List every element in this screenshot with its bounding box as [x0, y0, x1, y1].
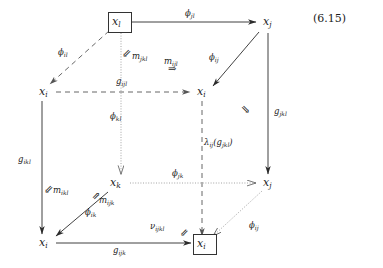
- edge-label-g-jkl: gjkl: [274, 107, 287, 117]
- node-x-i-front-top-right: xi: [197, 86, 206, 99]
- cell-label-m-ijk: mijk: [99, 196, 114, 206]
- edge-phi-ij-upper: [213, 32, 259, 86]
- node-x-k: xk: [110, 177, 121, 190]
- node-x-j-back-bot-right: xj: [263, 177, 272, 190]
- edge-label-g-ikl: gikl: [18, 155, 31, 165]
- cube-diagram-svg: [0, 0, 383, 268]
- edge-label-phi-jk: ϕjk: [172, 169, 183, 179]
- edge-label-phi-jl: ϕjl: [185, 9, 195, 19]
- double-arrow-m-jkl-icon: ⇙: [122, 48, 131, 59]
- edge-label-phi-il: ϕil: [58, 48, 68, 58]
- double-arrow-nu-ijkl-icon: ⇙: [180, 228, 188, 238]
- cell-label-m-jkl: mjkl: [132, 52, 147, 62]
- figure-canvas: (6.15) xl xj xi xi xk xj xi xi ϕjl ϕil ϕ…: [0, 0, 383, 268]
- node-x-i-front-top-left: xi: [39, 86, 48, 99]
- cell-label-nu-ijkl: νijkl: [150, 222, 165, 232]
- edge-phi-il: [50, 31, 109, 84]
- edge-label-phi-ik: ϕik: [85, 208, 96, 218]
- double-arrow-m-ikl-icon: ⇙: [44, 184, 53, 195]
- node-x-i-front-bot-left: xi: [39, 237, 48, 250]
- double-arrow-right-face-icon: ⇘: [241, 104, 250, 115]
- edge-label-lambda-ij-g-jkl: λij(gjkl): [204, 138, 233, 148]
- node-x-l: xl: [112, 16, 121, 29]
- double-arrow-m-ijl-icon: ⇒: [168, 64, 176, 74]
- node-x-i-front-bot-right: xi: [197, 238, 206, 251]
- edge-label-phi-ij-lower: ϕij: [249, 221, 259, 231]
- edge-label-phi-ij-upper: ϕij: [209, 53, 219, 63]
- cell-label-m-ikl: mikl: [53, 186, 69, 196]
- edge-label-g-ijl: gijl: [116, 77, 127, 87]
- edge-label-phi-kl: ϕkl: [110, 112, 121, 122]
- node-x-j-back-top-right: xj: [263, 16, 272, 29]
- equation-number: (6.15): [313, 13, 346, 24]
- edge-label-g-ijk: gijk: [113, 246, 126, 256]
